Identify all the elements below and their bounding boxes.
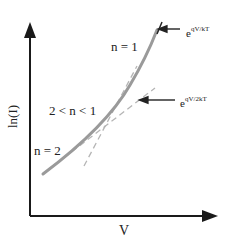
x-axis-label: V <box>119 224 129 238</box>
asymptote-n1-exponent: qV/kT <box>191 25 209 33</box>
region-label-n1: n = 1 <box>111 40 138 53</box>
region-label-mid: 2 < n < 1 <box>49 104 96 117</box>
asymptote-n2-label: eqV/2kT <box>180 96 207 109</box>
curve-end-tick <box>157 22 162 34</box>
region-label-n2: n = 2 <box>34 144 61 157</box>
y-axis-label: ln(I) <box>6 105 19 128</box>
asymptote-n1-label: eqV/kT <box>186 26 209 39</box>
asymptote-n2-exponent: qV/2kT <box>185 95 207 103</box>
